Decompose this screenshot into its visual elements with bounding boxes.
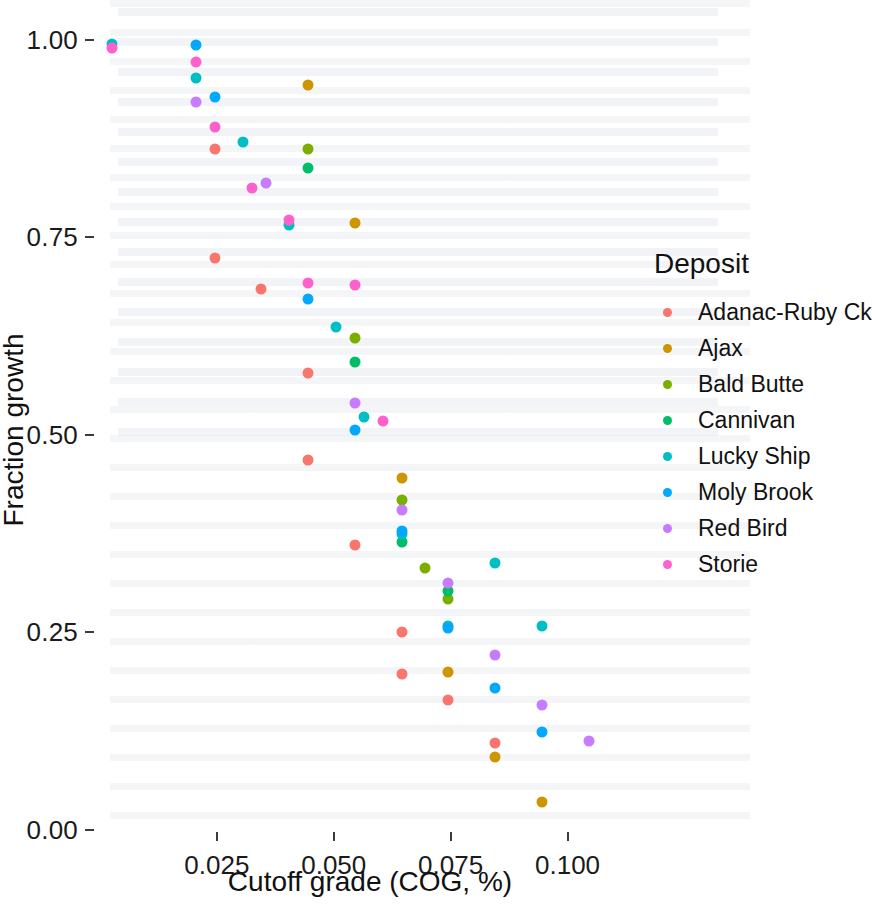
data-point bbox=[331, 322, 342, 333]
data-point bbox=[284, 214, 295, 225]
data-point bbox=[443, 666, 454, 677]
legend-item-bald-butte[interactable]: Bald Butte bbox=[654, 366, 854, 402]
data-point bbox=[303, 455, 314, 466]
data-point bbox=[443, 623, 454, 634]
data-point bbox=[349, 540, 360, 551]
data-point bbox=[443, 694, 454, 705]
data-point bbox=[209, 252, 220, 263]
x-tick-mark bbox=[216, 832, 218, 841]
data-point bbox=[237, 137, 248, 148]
data-point bbox=[349, 398, 360, 409]
legend-key-swatch bbox=[654, 560, 680, 569]
data-point bbox=[190, 40, 201, 51]
data-point bbox=[260, 178, 271, 189]
data-point bbox=[490, 557, 501, 568]
plot-panel bbox=[100, 8, 640, 830]
legend-item-label: Moly Brook bbox=[698, 479, 813, 506]
legend-key-swatch bbox=[654, 416, 680, 425]
data-point bbox=[396, 504, 407, 515]
legend-item-moly-brook[interactable]: Moly Brook bbox=[654, 474, 854, 510]
data-point bbox=[349, 425, 360, 436]
data-point bbox=[209, 143, 220, 154]
data-point bbox=[209, 91, 220, 102]
data-point bbox=[190, 97, 201, 108]
data-point bbox=[246, 183, 257, 194]
legend-key-swatch bbox=[654, 308, 680, 317]
data-point bbox=[349, 280, 360, 291]
legend-items: Adanac-Ruby CkAjaxBald ButteCannivanLuck… bbox=[654, 294, 854, 582]
legend-item-label: Ajax bbox=[698, 335, 743, 362]
legend-item-red-bird[interactable]: Red Bird bbox=[654, 510, 854, 546]
legend-item-storie[interactable]: Storie bbox=[654, 546, 854, 582]
data-point bbox=[536, 726, 547, 737]
y-tick-mark bbox=[85, 39, 94, 41]
legend-dot-icon bbox=[663, 524, 672, 533]
legend-dot-icon bbox=[663, 380, 672, 389]
data-point bbox=[303, 278, 314, 289]
legend-item-adanac-ruby-ck[interactable]: Adanac-Ruby Ck bbox=[654, 294, 854, 330]
legend-item-label: Lucky Ship bbox=[698, 443, 811, 470]
data-point bbox=[303, 143, 314, 154]
y-tick-label: 1.00 bbox=[16, 24, 78, 55]
data-point bbox=[396, 526, 407, 537]
legend-key-swatch bbox=[654, 524, 680, 533]
x-tick-mark bbox=[450, 832, 452, 841]
data-point bbox=[490, 738, 501, 749]
legend-item-label: Cannivan bbox=[698, 407, 795, 434]
data-point bbox=[396, 668, 407, 679]
data-point bbox=[490, 752, 501, 763]
legend-title: Deposit bbox=[654, 248, 854, 280]
data-point bbox=[303, 368, 314, 379]
data-point bbox=[190, 56, 201, 67]
y-axis: 0.000.250.500.751.00 bbox=[20, 8, 100, 830]
legend-dot-icon bbox=[663, 344, 672, 353]
data-point bbox=[349, 333, 360, 344]
data-point bbox=[349, 357, 360, 368]
x-tick-mark bbox=[567, 832, 569, 841]
y-tick-label: 0.75 bbox=[16, 222, 78, 253]
x-axis-title: Cutoff grade (COG, %) bbox=[100, 866, 640, 898]
y-tick-mark bbox=[85, 631, 94, 633]
legend-item-label: Bald Butte bbox=[698, 371, 804, 398]
data-point bbox=[256, 284, 267, 295]
legend-item-label: Adanac-Ruby Ck bbox=[698, 299, 872, 326]
legend-key-swatch bbox=[654, 344, 680, 353]
data-point bbox=[303, 80, 314, 91]
legend-item-label: Storie bbox=[698, 551, 758, 578]
data-point bbox=[396, 473, 407, 484]
data-point bbox=[303, 293, 314, 304]
legend-key-swatch bbox=[654, 380, 680, 389]
legend-dot-icon bbox=[663, 452, 672, 461]
data-point bbox=[303, 162, 314, 173]
legend-item-lucky-ship[interactable]: Lucky Ship bbox=[654, 438, 854, 474]
data-point bbox=[536, 621, 547, 632]
data-point bbox=[536, 700, 547, 711]
data-point bbox=[419, 562, 430, 573]
x-tick-mark bbox=[333, 832, 335, 841]
data-point bbox=[190, 72, 201, 83]
data-point bbox=[536, 797, 547, 808]
y-tick-mark bbox=[85, 236, 94, 238]
y-tick-label: 0.25 bbox=[16, 617, 78, 648]
data-point bbox=[583, 736, 594, 747]
legend-item-cannivan[interactable]: Cannivan bbox=[654, 402, 854, 438]
legend-key-swatch bbox=[654, 488, 680, 497]
data-point bbox=[443, 578, 454, 589]
y-tick-mark bbox=[85, 829, 94, 831]
y-tick-label: 0.00 bbox=[16, 815, 78, 846]
data-point bbox=[349, 217, 360, 228]
data-point bbox=[209, 121, 220, 132]
data-point bbox=[377, 415, 388, 426]
data-point bbox=[106, 42, 117, 53]
legend-item-ajax[interactable]: Ajax bbox=[654, 330, 854, 366]
legend-dot-icon bbox=[663, 416, 672, 425]
legend-key-swatch bbox=[654, 452, 680, 461]
data-point bbox=[490, 682, 501, 693]
y-tick-mark bbox=[85, 434, 94, 436]
data-point bbox=[396, 627, 407, 638]
data-point bbox=[359, 412, 370, 423]
legend: Deposit Adanac-Ruby CkAjaxBald ButteCann… bbox=[654, 248, 854, 582]
data-point bbox=[490, 649, 501, 660]
legend-dot-icon bbox=[663, 560, 672, 569]
